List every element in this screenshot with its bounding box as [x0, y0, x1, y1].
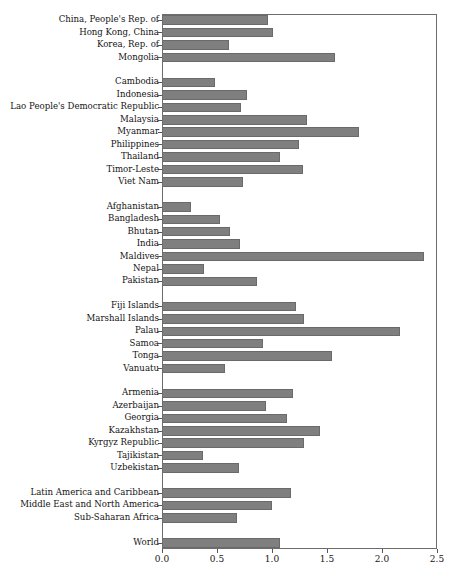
category-label: Afghanistan — [0, 201, 162, 212]
bar-row: China, People's Rep. of — [0, 14, 451, 26]
bar — [163, 227, 230, 237]
bar-row: Philippines — [0, 138, 451, 150]
category-label: Fiji Islands — [0, 300, 162, 311]
x-axis-tick-label: 1.0 — [252, 554, 292, 564]
bar — [163, 513, 237, 523]
category-label: Armenia — [0, 387, 162, 398]
bar-row: Cambodia — [0, 76, 451, 88]
bar — [163, 401, 266, 411]
x-axis-tick — [272, 549, 273, 553]
bar — [163, 78, 215, 88]
bar-row: Marshall Islands — [0, 313, 451, 325]
category-label: Sub-Saharan Africa — [0, 512, 162, 523]
bar — [163, 177, 243, 187]
spacer-row — [0, 288, 451, 300]
bar-row: Tonga — [0, 350, 451, 362]
spacer-row — [0, 524, 451, 536]
spacer-row — [0, 375, 451, 387]
bar — [163, 152, 280, 162]
bar-row: Kyrgyz Republic — [0, 437, 451, 449]
bar — [163, 538, 280, 548]
x-axis-tick-label: 0.5 — [197, 554, 237, 564]
bar-row: Pakistan — [0, 275, 451, 287]
category-label: Cambodia — [0, 76, 162, 87]
bar-row: Bangladesh — [0, 213, 451, 225]
bar — [163, 264, 204, 274]
bar-chart: China, People's Rep. ofHong Kong, ChinaK… — [0, 0, 451, 584]
bar — [163, 414, 287, 424]
bar-row: Tajikistan — [0, 449, 451, 461]
category-label: Indonesia — [0, 89, 162, 100]
bar — [163, 327, 400, 337]
x-axis-tick — [437, 549, 438, 553]
bar — [163, 451, 203, 461]
category-label: Hong Kong, China — [0, 27, 162, 38]
bar-row: Azerbaijan — [0, 400, 451, 412]
category-label: Mongolia — [0, 52, 162, 63]
bar — [163, 438, 304, 448]
category-label: Palau — [0, 325, 162, 336]
bar-row: Korea, Rep. of — [0, 39, 451, 51]
category-label: Viet Nam — [0, 176, 162, 187]
bar-row: Vanuatu — [0, 362, 451, 374]
bar — [163, 90, 247, 100]
bar — [163, 53, 335, 63]
bar — [163, 202, 191, 212]
x-axis-tick — [382, 549, 383, 553]
bar — [163, 140, 299, 150]
bar-row: Armenia — [0, 387, 451, 399]
spacer-row — [0, 64, 451, 76]
bar-row: Palau — [0, 325, 451, 337]
category-label: Tajikistan — [0, 450, 162, 461]
bar — [163, 426, 320, 436]
category-label: Thailand — [0, 151, 162, 162]
bar-row: Malaysia — [0, 114, 451, 126]
bar-row: Fiji Islands — [0, 300, 451, 312]
bar — [163, 115, 307, 125]
bar-row: Mongolia — [0, 51, 451, 63]
bar — [163, 215, 220, 225]
bar — [163, 463, 239, 473]
category-label: Korea, Rep. of — [0, 39, 162, 50]
bar-row: Nepal — [0, 263, 451, 275]
bar — [163, 28, 273, 38]
bar-row: World — [0, 537, 451, 549]
category-label: India — [0, 238, 162, 249]
category-label: China, People's Rep. of — [0, 14, 162, 25]
bar — [163, 239, 240, 249]
category-label: Lao People's Democratic Republic — [0, 101, 162, 112]
bar — [163, 103, 241, 113]
category-label: Latin America and Caribbean — [0, 487, 162, 498]
category-label: Malaysia — [0, 114, 162, 125]
category-label: Philippines — [0, 139, 162, 150]
bar — [163, 40, 229, 50]
category-label: Georgia — [0, 412, 162, 423]
bar-row: Latin America and Caribbean — [0, 487, 451, 499]
bar-row: Samoa — [0, 337, 451, 349]
category-label: Samoa — [0, 338, 162, 349]
x-axis-tick-label: 0.0 — [142, 554, 182, 564]
bar-row: Viet Nam — [0, 176, 451, 188]
category-label: Myanmar — [0, 126, 162, 137]
category-label: Pakistan — [0, 275, 162, 286]
bar-row: Afghanistan — [0, 201, 451, 213]
bar — [163, 389, 293, 399]
category-label: Vanuatu — [0, 363, 162, 374]
bar-row: Indonesia — [0, 89, 451, 101]
bar-rows-container: China, People's Rep. ofHong Kong, ChinaK… — [0, 14, 451, 549]
bar-row: Lao People's Democratic Republic — [0, 101, 451, 113]
category-label: Azerbaijan — [0, 400, 162, 411]
bar-row: Maldives — [0, 250, 451, 262]
bar-row: India — [0, 238, 451, 250]
category-label: Bhutan — [0, 226, 162, 237]
category-label: Uzbekistan — [0, 462, 162, 473]
bar — [163, 165, 303, 175]
x-axis-tick-label: 1.5 — [307, 554, 347, 564]
bar-row: Myanmar — [0, 126, 451, 138]
bar — [163, 252, 424, 262]
category-label: Kazakhstan — [0, 425, 162, 436]
bar — [163, 339, 263, 349]
category-label: Maldives — [0, 251, 162, 262]
spacer-row — [0, 188, 451, 200]
bar-row: Georgia — [0, 412, 451, 424]
